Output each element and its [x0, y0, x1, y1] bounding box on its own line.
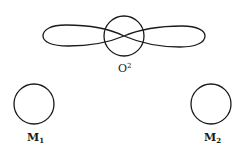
left-atom-label: M1	[27, 131, 44, 145]
center-atom-label: O2	[118, 62, 132, 75]
left-atom-circle	[14, 84, 54, 124]
p-orbital-lobes	[43, 25, 205, 47]
right-atom-circle	[191, 84, 231, 124]
orbital-diagram: O2 M1 M2	[0, 0, 241, 154]
right-atom-label: M2	[204, 131, 221, 145]
